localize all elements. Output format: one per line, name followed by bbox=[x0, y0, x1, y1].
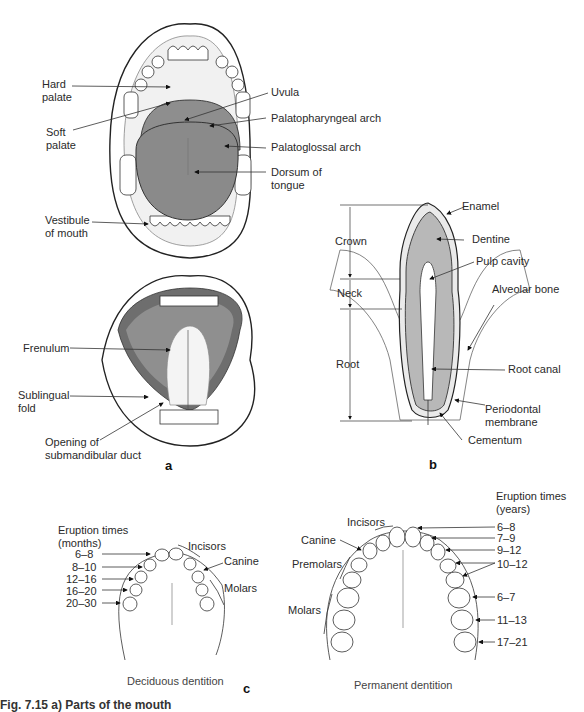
deciduous-label-incisors: Incisors bbox=[188, 540, 226, 553]
label-frenulum: Frenulum bbox=[23, 342, 69, 355]
label-neck: Neck bbox=[337, 287, 362, 300]
label-palatopharyngeal-arch: Palatopharyngeal arch bbox=[271, 112, 381, 125]
permanent-caption: Permanent dentition bbox=[354, 679, 452, 691]
label-periodontal-membrane: Periodontal membrane bbox=[485, 403, 541, 429]
deciduous-label-molars: Molars bbox=[224, 582, 257, 595]
permanent-label-incisors: Incisors bbox=[347, 516, 385, 529]
label-dorsum-of-tongue: Dorsum of tongue bbox=[271, 166, 322, 192]
permanent-label-molars: Molars bbox=[288, 604, 321, 617]
deciduous-eruption-5: 20–30 bbox=[66, 597, 97, 610]
deciduous-arch-drawing bbox=[119, 548, 225, 660]
deciduous-eruption-header: Eruption times (months) bbox=[58, 524, 128, 550]
panel-letter-b: b bbox=[429, 457, 437, 472]
deciduous-label-canine: Canine bbox=[224, 555, 259, 568]
permanent-eruption-header: Eruption times (years) bbox=[496, 490, 566, 516]
label-cementum: Cementum bbox=[468, 434, 522, 447]
figure-caption: Fig. 7.15 a) Parts of the mouth bbox=[0, 698, 171, 712]
under-tongue-drawing bbox=[102, 276, 255, 446]
deciduous-eruption-1: 6–8 bbox=[75, 548, 93, 561]
label-root-canal: Root canal bbox=[508, 363, 561, 376]
label-hard-palate: Hard palate bbox=[42, 78, 72, 104]
label-dentine: Dentine bbox=[472, 233, 510, 246]
permanent-arch-drawing bbox=[327, 527, 479, 660]
permanent-eruption-7: 17–21 bbox=[497, 636, 528, 649]
permanent-label-canine: Canine bbox=[301, 534, 336, 547]
label-soft-palate: Soft palate bbox=[46, 126, 76, 152]
permanent-label-premolars: Premolars bbox=[292, 558, 342, 571]
label-enamel: Enamel bbox=[462, 200, 499, 213]
permanent-eruption-6: 11–13 bbox=[497, 614, 527, 627]
label-alveolar-bone: Alveolar bone bbox=[492, 283, 559, 296]
label-palatoglossal-arch: Palatoglossal arch bbox=[271, 141, 361, 154]
panel-letter-c: c bbox=[243, 681, 250, 696]
deciduous-caption: Deciduous dentition bbox=[127, 675, 224, 687]
label-sublingual-fold: Sublingual fold bbox=[18, 389, 69, 415]
label-opening-submandibular-duct: Opening of submandibular duct bbox=[45, 436, 141, 462]
label-crown: Crown bbox=[335, 235, 367, 248]
label-pulp-cavity: Pulp cavity bbox=[476, 255, 529, 268]
permanent-eruption-5: 6–7 bbox=[497, 591, 515, 604]
open-mouth-drawing bbox=[110, 24, 251, 258]
permanent-eruption-3: 9–12 bbox=[497, 544, 521, 557]
panel-letter-a: a bbox=[165, 458, 172, 473]
label-vestibule-of-mouth: Vestibule of mouth bbox=[45, 214, 90, 240]
permanent-eruption-4: 10–12 bbox=[497, 558, 528, 571]
label-uvula: Uvula bbox=[271, 86, 299, 99]
label-root: Root bbox=[336, 358, 359, 371]
